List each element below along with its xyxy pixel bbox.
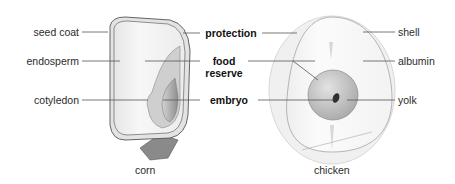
- label-seed-coat: seed coat: [6, 26, 79, 38]
- label-endosperm: endosperm: [6, 55, 79, 67]
- chicken-egg: [269, 16, 395, 164]
- label-albumin: albumin: [398, 55, 435, 67]
- label-shell: shell: [398, 26, 420, 38]
- label-yolk: yolk: [398, 94, 417, 106]
- caption-corn: corn: [135, 164, 155, 176]
- label-food-reserve-line2: reserve: [202, 67, 246, 79]
- label-cotyledon: cotyledon: [6, 94, 79, 106]
- label-food-reserve-line1: food: [202, 55, 246, 67]
- label-embryo: embryo: [202, 94, 256, 106]
- label-protection: protection: [202, 27, 260, 39]
- egg-yolk: [308, 70, 358, 120]
- corn-kernel: [110, 17, 190, 160]
- caption-chicken: chicken: [314, 164, 350, 176]
